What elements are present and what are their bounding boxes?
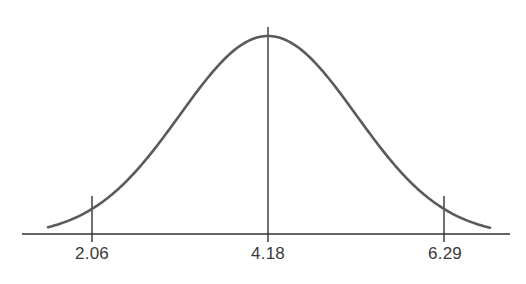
tick-label-center: 4.18: [251, 244, 285, 264]
bell-curve: [48, 36, 490, 228]
tick-label-right: 6.29: [428, 244, 462, 264]
tick-label-left: 2.06: [75, 244, 109, 264]
normal-curve-diagram: [0, 0, 526, 284]
